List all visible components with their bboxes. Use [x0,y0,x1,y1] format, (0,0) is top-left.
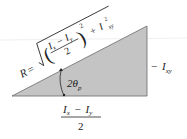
base-label: Ix − Iy 2 [61,103,101,132]
svg-text:2: 2 [103,16,108,23]
svg-text:xy: xy [106,22,115,30]
principal-axes-triangle-diagram: 2θp − Ixy Ix − Iy 2 R= ( Ix − Iy 2 ) 2 [0,0,187,139]
arc-arrowhead-bottom [63,94,65,96]
svg-text:R=: R= [17,62,37,80]
svg-text:Ix − Iy: Ix − Iy [45,30,74,54]
svg-text:Ix − Iy: Ix − Iy [62,103,93,117]
svg-text:2: 2 [78,120,84,132]
svg-text:2: 2 [62,45,72,57]
vertical-side-label: − Ixy [151,60,173,75]
scan-artifact-line [0,38,187,40]
svg-text:+ I: + I [88,20,106,36]
